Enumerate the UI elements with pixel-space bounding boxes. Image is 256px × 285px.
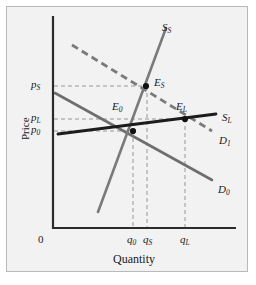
quantity-tick-qL-sub: L	[186, 238, 190, 247]
curve-label-D1-sub: 1	[227, 139, 231, 148]
equilibrium-label-EL-sub: L	[183, 105, 187, 114]
curve-label-SL-sub: L	[228, 116, 232, 125]
price-tick-p0-sub: 0	[37, 128, 41, 137]
supply-demand-figure: pS pL p0 q0 qS qL SS SL D0 D1 ES E0 EL P…	[0, 0, 256, 285]
equilibrium-label-E0-base: E	[112, 100, 119, 112]
point-E0	[130, 128, 136, 134]
curve-demand-d0	[55, 93, 212, 180]
curve-supply-sl	[58, 114, 216, 134]
equilibrium-label-EL: EL	[176, 101, 187, 113]
quantity-tick-qS-sub: S	[149, 238, 153, 247]
equilibrium-label-ES-base: E	[154, 76, 161, 88]
price-tick-pS-sub: S	[37, 83, 41, 92]
point-ES	[143, 83, 149, 89]
price-tick-pS: pS	[31, 79, 40, 91]
equilibrium-label-E0: E0	[112, 101, 122, 113]
quantity-tick-q0-sub: 0	[133, 238, 137, 247]
curve-label-D0-sub: 0	[226, 188, 230, 197]
curve-label-SL: SL	[222, 112, 232, 124]
quantity-tick-q0: q0	[127, 234, 136, 246]
equilibrium-label-E0-sub: 0	[119, 105, 123, 114]
curve-label-D0-base: D	[218, 183, 226, 195]
price-tick-p0: p0	[31, 124, 40, 136]
quantity-tick-qL: qL	[180, 234, 190, 246]
equilibrium-label-ES-sub: S	[161, 81, 165, 90]
quantity-tick-qS: qS	[143, 234, 152, 246]
origin-label: 0	[38, 234, 44, 245]
curve-supply-ss	[98, 28, 166, 212]
curve-label-SS-sub: S	[168, 26, 172, 35]
x-axis-title: Quantity	[113, 253, 155, 265]
y-axis-title: Price	[20, 117, 31, 140]
curve-label-D0: D0	[218, 184, 230, 196]
point-EL	[182, 116, 188, 122]
curve-label-SS: SS	[162, 22, 171, 34]
equilibrium-label-EL-base: E	[176, 100, 183, 112]
equilibrium-label-ES: ES	[154, 77, 164, 89]
curve-label-D1-base: D	[219, 134, 227, 146]
curve-label-D1: D1	[219, 135, 231, 147]
